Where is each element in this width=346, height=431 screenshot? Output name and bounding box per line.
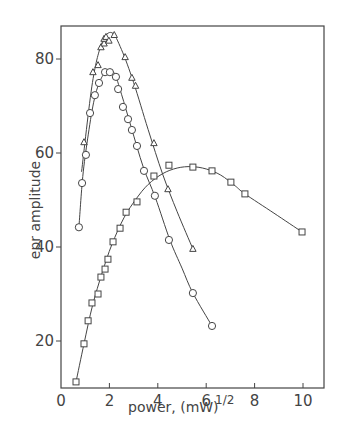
circle-marker <box>208 322 215 329</box>
square-marker <box>105 256 111 262</box>
epr-power-chart: 024681020406080 epr amplitude power, (mW… <box>0 0 346 431</box>
square-marker <box>299 229 305 235</box>
y-axis-title: epr amplitude <box>27 161 43 259</box>
y-tick-label: 80 <box>35 50 54 68</box>
triangle-marker <box>81 139 87 145</box>
square-marker <box>166 162 172 168</box>
triangle-marker <box>190 245 196 251</box>
circle-marker <box>140 167 147 174</box>
x-tick-label: 0 <box>56 392 66 410</box>
square-marker <box>134 199 140 205</box>
square-marker <box>117 225 123 231</box>
circle-marker <box>82 151 89 158</box>
circle-marker <box>95 79 102 86</box>
circle-marker <box>133 142 140 149</box>
square-marker <box>151 173 157 179</box>
square-marker <box>89 300 95 306</box>
circle-marker <box>106 69 113 76</box>
circle-fit-curve <box>79 70 212 326</box>
x-axis-title: power, (mW) <box>128 399 219 415</box>
circle-marker <box>124 116 131 123</box>
circle-marker <box>78 179 85 186</box>
triangle-marker <box>129 74 135 80</box>
square-marker <box>228 179 234 185</box>
circle-marker <box>128 126 135 133</box>
square-marker <box>242 191 248 197</box>
x-axis-title-superscript: 1/2 <box>215 393 234 407</box>
y-tick-label: 60 <box>35 144 54 162</box>
x-tick-label: 10 <box>293 392 312 410</box>
circle-marker <box>119 103 126 110</box>
square-fit-curve <box>76 167 302 382</box>
square-marker <box>81 341 87 347</box>
data-markers <box>73 32 305 385</box>
square-marker <box>95 291 101 297</box>
square-marker <box>73 379 79 385</box>
triangle-marker <box>122 54 128 60</box>
square-marker <box>209 168 215 174</box>
x-tick-label: 8 <box>250 392 260 410</box>
triangle-marker <box>165 186 171 192</box>
triangle-marker <box>132 82 138 88</box>
circle-marker <box>75 224 82 231</box>
circle-marker <box>91 92 98 99</box>
circle-marker <box>115 85 122 92</box>
circle-marker <box>189 289 196 296</box>
square-marker <box>98 274 104 280</box>
square-marker <box>123 209 129 215</box>
circle-marker <box>112 73 119 80</box>
square-marker <box>190 164 196 170</box>
circle-marker <box>165 236 172 243</box>
square-marker <box>102 266 108 272</box>
circle-marker <box>151 192 158 199</box>
fit-curves <box>76 32 302 381</box>
square-marker <box>110 239 116 245</box>
y-tick-label: 20 <box>35 332 54 350</box>
circle-marker <box>86 109 93 116</box>
x-tick-label: 2 <box>105 392 115 410</box>
square-marker <box>85 318 91 324</box>
